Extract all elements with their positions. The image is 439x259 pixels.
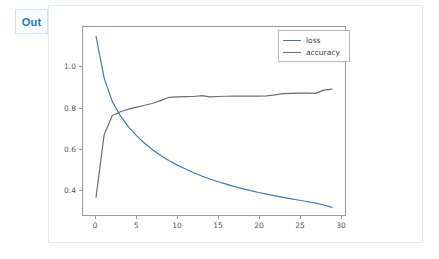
y-tick-mark: [79, 190, 82, 191]
x-tick-mark: [300, 216, 301, 219]
x-tick-mark: [259, 216, 260, 219]
x-tick-label: 15: [213, 221, 223, 230]
output-prompt: Out: [15, 9, 48, 34]
notebook-output-row: Out 0.40.60.81.0 051015202530 loss accur…: [0, 0, 439, 259]
chart-legend: loss accuracy: [278, 30, 350, 62]
x-tick-mark: [341, 216, 342, 219]
legend-swatch-accuracy: [283, 52, 301, 53]
cell-output-area: 0.40.60.81.0 051015202530 loss accuracy: [48, 5, 423, 243]
legend-swatch-loss: [283, 40, 301, 41]
output-prompt-label: Out: [22, 16, 42, 28]
y-tick-label: 0.8: [49, 103, 76, 112]
y-tick-mark: [79, 66, 82, 67]
x-tick-mark: [136, 216, 137, 219]
matplotlib-figure: 0.40.60.81.0 051015202530 loss accuracy: [49, 6, 422, 242]
y-tick-label: 0.4: [49, 186, 76, 195]
x-tick-label: 5: [134, 221, 139, 230]
x-tick-mark: [95, 216, 96, 219]
line-series-accuracy: [96, 89, 332, 197]
x-tick-mark: [218, 216, 219, 219]
x-tick-label: 0: [93, 221, 98, 230]
x-tick-label: 25: [295, 221, 305, 230]
line-series-loss: [96, 36, 332, 207]
legend-entry-loss: loss: [283, 34, 345, 46]
x-tick-label: 30: [336, 221, 346, 230]
y-tick-label: 1.0: [49, 62, 76, 71]
x-tick-label: 20: [254, 221, 264, 230]
y-tick-mark: [79, 149, 82, 150]
legend-label-loss: loss: [306, 36, 321, 45]
legend-label-accuracy: accuracy: [306, 48, 340, 57]
x-tick-label: 10: [172, 221, 182, 230]
legend-entry-accuracy: accuracy: [283, 46, 345, 58]
y-tick-mark: [79, 108, 82, 109]
y-tick-label: 0.6: [49, 144, 76, 153]
x-tick-mark: [177, 216, 178, 219]
